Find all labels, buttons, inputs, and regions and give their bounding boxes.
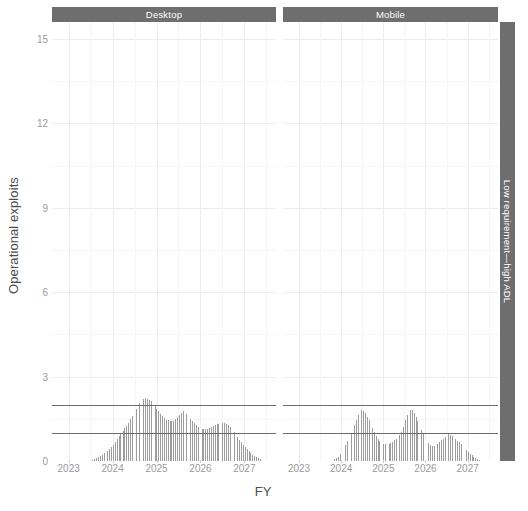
facet-strip-mobile-label: Mobile (376, 9, 405, 20)
gridline-horizontal (283, 292, 498, 293)
gridline-horizontal (52, 377, 276, 378)
gridline-vertical (157, 22, 158, 461)
x-tick-label: 2026 (414, 463, 436, 474)
facet-strip-desktop: Desktop (52, 7, 276, 22)
gridline-vertical (468, 22, 469, 461)
gridline-vertical (425, 22, 426, 461)
gridline-horizontal (283, 377, 498, 378)
x-axis-ticks-desktop: 20232024202520262027 (52, 463, 276, 479)
gridline-vertical (341, 22, 342, 461)
gridline-horizontal (52, 208, 276, 209)
x-tick-label: 2027 (457, 463, 479, 474)
gridline-horizontal (283, 208, 498, 209)
gridline-horizontal (52, 123, 276, 124)
gridline-horizontal-minor (283, 81, 498, 82)
y-tick-label: 6 (28, 287, 48, 298)
facet-strip-desktop-label: Desktop (146, 9, 182, 20)
facet-strip-row: Low requirement—high ADL (500, 22, 515, 461)
gridline-vertical-minor (447, 22, 448, 461)
reference-line (283, 405, 498, 406)
x-tick-label: 2024 (330, 463, 352, 474)
x-axis-title: FY (26, 484, 500, 499)
gridline-horizontal-minor (283, 250, 498, 251)
gridline-vertical-minor (222, 22, 223, 461)
reference-line (52, 433, 276, 434)
x-tick-label: 2027 (233, 463, 255, 474)
y-tick-label: 0 (28, 456, 48, 467)
gridline-horizontal-minor (52, 166, 276, 167)
y-tick-label: 15 (28, 33, 48, 44)
y-tick-label: 3 (28, 371, 48, 382)
x-axis-ticks-mobile: 20232024202520262027 (283, 463, 498, 479)
x-tick-label: 2024 (101, 463, 123, 474)
reference-line (52, 405, 276, 406)
gridline-vertical-minor (362, 22, 363, 461)
gridline-horizontal (52, 292, 276, 293)
gridline-vertical-minor (266, 22, 267, 461)
gridline-vertical (113, 22, 114, 461)
gridline-vertical-minor (178, 22, 179, 461)
gridline-horizontal-minor (283, 334, 498, 335)
y-tick-label: 9 (28, 202, 48, 213)
gridline-vertical-minor (489, 22, 490, 461)
reference-line (283, 433, 498, 434)
facet-chart: Operational exploits 03691215 Desktop Mo… (0, 0, 528, 511)
gridline-vertical (244, 22, 245, 461)
x-tick-label: 2023 (58, 463, 80, 474)
gridline-horizontal-minor (283, 166, 498, 167)
gridline-horizontal (283, 123, 498, 124)
gridline-horizontal-minor (283, 419, 498, 420)
gridline-horizontal-minor (52, 81, 276, 82)
y-axis-ticks: 03691215 (20, 0, 48, 511)
x-tick-label: 2023 (288, 463, 310, 474)
panel-mobile (283, 22, 498, 461)
gridline-horizontal-minor (52, 250, 276, 251)
gridline-horizontal (283, 39, 498, 40)
gridline-vertical-minor (404, 22, 405, 461)
facet-strip-mobile: Mobile (283, 7, 498, 22)
gridline-vertical-minor (320, 22, 321, 461)
gridline-vertical (200, 22, 201, 461)
gridline-vertical (69, 22, 70, 461)
gridline-horizontal-minor (52, 334, 276, 335)
x-tick-label: 2025 (145, 463, 167, 474)
bar (481, 460, 483, 461)
facet-strip-row-label: Low requirement—high ADL (502, 180, 513, 304)
x-tick-label: 2026 (189, 463, 211, 474)
gridline-vertical-minor (91, 22, 92, 461)
gridline-vertical (299, 22, 300, 461)
gridline-vertical-minor (135, 22, 136, 461)
bar (260, 459, 262, 461)
x-tick-label: 2025 (372, 463, 394, 474)
panel-desktop (52, 22, 276, 461)
gridline-vertical (383, 22, 384, 461)
gridline-horizontal (52, 39, 276, 40)
y-tick-label: 12 (28, 118, 48, 129)
